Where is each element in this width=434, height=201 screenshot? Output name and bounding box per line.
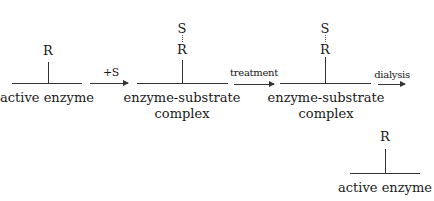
- binding-dots: [325, 35, 327, 42]
- caption: active enzyme: [338, 181, 432, 194]
- backbone-line: [137, 83, 228, 84]
- arrow-label: dialysis: [374, 70, 409, 80]
- arrow-right-icon: [378, 84, 405, 85]
- caption-line-1: enzyme-substrate: [268, 91, 385, 104]
- arrow-label: treatment: [230, 68, 278, 78]
- residue-r-label: R: [43, 44, 53, 57]
- side-chain-line: [182, 60, 183, 83]
- residue-r-label: R: [380, 130, 390, 143]
- binding-dots: [182, 35, 184, 42]
- caption: active enzyme: [0, 91, 94, 104]
- side-chain-line: [385, 149, 386, 173]
- side-chain-line: [325, 57, 326, 83]
- side-chain-line: [48, 62, 49, 83]
- substrate-s-label: S: [321, 22, 330, 35]
- arrow-right-icon: [234, 84, 274, 85]
- caption-line-2: complex: [299, 107, 354, 120]
- backbone-line: [280, 83, 371, 84]
- arrow-right-icon: [90, 83, 128, 84]
- substrate-s-label: S: [178, 22, 187, 35]
- backbone-line: [350, 173, 420, 174]
- caption-line-1: enzyme-substrate: [124, 91, 241, 104]
- caption-line-2: complex: [155, 107, 210, 120]
- backbone-line: [12, 83, 82, 84]
- residue-r-label: R: [320, 43, 330, 56]
- residue-r-label: R: [177, 43, 187, 56]
- arrow-label: +S: [103, 67, 119, 78]
